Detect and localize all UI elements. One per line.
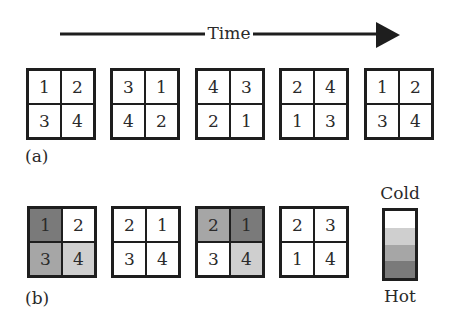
grid-cell: 3 bbox=[113, 71, 144, 103]
grid-a-2: 3142 bbox=[110, 68, 180, 140]
grid-cell: 2 bbox=[282, 71, 313, 103]
grid-cell: 3 bbox=[367, 105, 398, 137]
temperature-legend-bar bbox=[382, 208, 418, 281]
grid-cell: 4 bbox=[113, 105, 144, 137]
grid-cell: 1 bbox=[282, 243, 313, 275]
grid-cell: 4 bbox=[62, 105, 93, 137]
grid-cell: 1 bbox=[231, 105, 262, 137]
grid-cell: 4 bbox=[315, 243, 346, 275]
grid-a-5: 1234 bbox=[364, 68, 434, 140]
grid-cell: 3 bbox=[114, 243, 145, 275]
grid-cell: 4 bbox=[231, 243, 262, 275]
grid-cell: 1 bbox=[29, 71, 60, 103]
grid-cell: 3 bbox=[315, 209, 346, 241]
grid-cell: 2 bbox=[198, 105, 229, 137]
grid-cell: 1 bbox=[231, 209, 262, 241]
grid-cell: 1 bbox=[146, 71, 177, 103]
grid-cell: 2 bbox=[282, 209, 313, 241]
grid-cell: 2 bbox=[400, 71, 431, 103]
grid-cell: 4 bbox=[147, 243, 178, 275]
grid-cell: 4 bbox=[63, 243, 94, 275]
grid-cell: 3 bbox=[315, 105, 346, 137]
grid-cell: 1 bbox=[282, 105, 313, 137]
panel-a-label: (a) bbox=[25, 146, 48, 166]
grid-cell: 1 bbox=[147, 209, 178, 241]
grid-b-1: 1234 bbox=[27, 206, 97, 278]
grid-b-4: 2314 bbox=[279, 206, 349, 278]
grid-cell: 2 bbox=[198, 209, 229, 241]
legend-cold-label: Cold bbox=[370, 183, 430, 203]
grid-cell: 1 bbox=[30, 209, 61, 241]
legend-band-warm bbox=[385, 245, 415, 262]
grid-b-3: 2134 bbox=[195, 206, 265, 278]
grid-cell: 3 bbox=[231, 71, 262, 103]
time-label: Time bbox=[205, 22, 253, 44]
panel-b-label: (b) bbox=[25, 288, 49, 308]
grid-cell: 1 bbox=[367, 71, 398, 103]
grid-cell: 4 bbox=[400, 105, 431, 137]
grid-cell: 3 bbox=[198, 243, 229, 275]
grid-a-1: 1234 bbox=[26, 68, 96, 140]
grid-cell: 2 bbox=[62, 71, 93, 103]
grid-cell: 3 bbox=[30, 243, 61, 275]
grid-b-2: 2134 bbox=[111, 206, 181, 278]
grid-cell: 2 bbox=[114, 209, 145, 241]
grid-cell: 4 bbox=[198, 71, 229, 103]
legend-band-cold bbox=[385, 211, 415, 228]
grid-cell: 3 bbox=[29, 105, 60, 137]
legend-band-hot bbox=[385, 261, 415, 278]
legend-band-cool bbox=[385, 228, 415, 245]
grid-cell: 4 bbox=[315, 71, 346, 103]
grid-a-3: 4321 bbox=[195, 68, 265, 140]
grid-cell: 2 bbox=[63, 209, 94, 241]
grid-cell: 2 bbox=[146, 105, 177, 137]
legend-hot-label: Hot bbox=[370, 286, 430, 306]
grid-a-4: 2413 bbox=[279, 68, 349, 140]
